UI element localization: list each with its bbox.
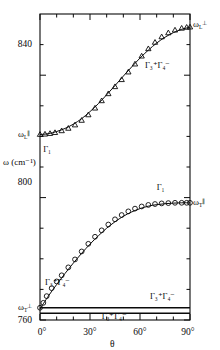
marker-triangle [152,40,157,45]
x-tick-label-90: 90° [176,328,200,338]
marker-circle [113,217,118,222]
y-tick-label-840: 840 [2,40,32,50]
marker-triangle [126,69,131,74]
marker-triangle [119,77,124,82]
marker-triangle [166,30,171,35]
marker-triangle [159,34,164,39]
sym-upper-curve: Γ₃⁺Γ₄⁻ [145,61,170,70]
omega-T-perp: ωT⊥ [18,303,32,313]
omega-T-par: ωT∥ [193,198,205,208]
y-tick-label-760: 760 [2,316,32,326]
y-axis-title: ω (cm⁻¹) [3,158,36,167]
upper-branch-fit [40,27,190,134]
marker-triangle [92,105,97,110]
y-tick-label-800: 800 [2,178,32,188]
omega-L-perp: ωL⊥ [193,20,207,30]
marker-circle [153,202,158,207]
marker-triangle [172,27,177,32]
omega-L-par: ωL∥ [18,130,30,140]
x-tick-label-30: 30° [78,328,102,338]
sym-lower-right: Γ₃⁺Γ₄⁻ [150,292,175,301]
sym-bottom: Γ₃⁺Γ₄⁻ [102,312,127,321]
sym-gamma1-lower: Γ₁ [157,183,165,192]
sym-gamma1-upper: Γ₁ [43,145,51,154]
y-axis-title-text: ω (cm⁻¹) [3,157,36,167]
x-tick-label-0: 0° [30,328,54,338]
plot-canvas [0,0,220,350]
chart-figure: 840 800 760 ω (cm⁻¹) 0° 30° 60° 90° θ ωL… [0,0,220,350]
x-axis-title: θ [110,340,115,350]
x-tick-label-60: 60° [128,328,152,338]
sym-lower-left: Γ₃⁺Γ₄⁻ [45,278,70,287]
